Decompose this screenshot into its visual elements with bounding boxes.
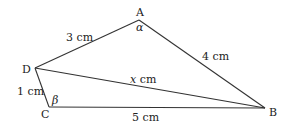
vertex-label-C: C xyxy=(41,108,49,121)
vertex-label-D: D xyxy=(22,63,31,76)
geometry-diagram: A B C D α β 3 cm 4 cm 1 cm 5 cm x cm xyxy=(0,0,287,132)
angle-label-alpha: α xyxy=(136,21,144,34)
edge-label-DA: 3 cm xyxy=(66,31,94,44)
edge-AB xyxy=(139,20,265,108)
edge-label-CB: 5 cm xyxy=(132,111,160,124)
unit-cm: cm xyxy=(136,73,157,86)
vertex-label-A: A xyxy=(135,6,145,19)
vertex-label-B: B xyxy=(269,106,277,119)
edge-label-DB: x cm xyxy=(130,73,157,86)
angle-label-beta: β xyxy=(51,94,58,107)
edge-CB xyxy=(49,107,265,108)
edge-DA xyxy=(35,20,139,68)
edge-label-DC: 1 cm xyxy=(17,85,45,98)
edge-label-AB: 4 cm xyxy=(202,50,230,63)
